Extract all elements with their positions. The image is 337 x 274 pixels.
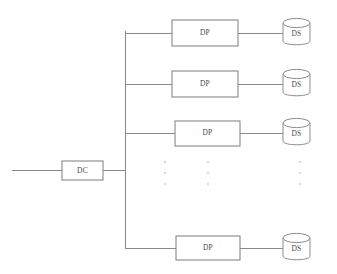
processor-node-dp-3[interactable]: DP (175, 121, 240, 146)
ellipsis-left (164, 161, 166, 185)
processor-label-4: DP (203, 243, 213, 252)
branch-row-1: DP DS (125, 18, 310, 46)
processor-label-1: DP (200, 28, 210, 37)
branch-row-4: DP DS (125, 233, 310, 260)
controller-node-dc[interactable]: DC (62, 161, 103, 180)
ellipsis-right (299, 161, 301, 185)
processor-label-2: DP (200, 79, 210, 88)
store-label-1: DS (291, 29, 301, 38)
store-node-ds-2[interactable]: DS (283, 69, 310, 95)
branch-row-2: DP DS (125, 69, 310, 97)
ellipsis-dot (299, 161, 301, 163)
ellipsis-dot (164, 183, 166, 185)
store-cylinder-top-2 (283, 69, 310, 78)
store-cylinder-top-3 (283, 118, 310, 127)
processor-node-dp-2[interactable]: DP (172, 71, 238, 97)
processor-node-dp-4[interactable]: DP (176, 236, 240, 260)
store-node-ds-1[interactable]: DS (283, 18, 310, 44)
processor-label-3: DP (202, 128, 212, 137)
store-label-4: DS (291, 244, 301, 253)
store-cylinder-top-1 (283, 18, 310, 27)
ellipsis-dot (207, 161, 209, 163)
ellipsis-dot (299, 183, 301, 185)
ellipsis-dot (164, 161, 166, 163)
diagram-canvas: DC DP DS DP (0, 0, 337, 274)
controller-label: DC (77, 166, 88, 175)
store-cylinder-top-4 (283, 233, 310, 242)
store-node-ds-3[interactable]: DS (283, 118, 310, 144)
branch-row-3: DP DS (125, 118, 310, 146)
store-label-2: DS (291, 80, 301, 89)
ellipsis-dot (299, 172, 301, 174)
store-label-3: DS (291, 129, 301, 138)
ellipsis-center (207, 161, 209, 185)
processor-node-dp-1[interactable]: DP (172, 20, 238, 46)
ellipsis-dot (207, 172, 209, 174)
architecture-diagram: DC DP DS DP (0, 0, 337, 274)
ellipsis-dot (207, 183, 209, 185)
store-node-ds-4[interactable]: DS (283, 233, 310, 259)
ellipsis-dot (164, 172, 166, 174)
ellipsis-group (164, 161, 301, 185)
